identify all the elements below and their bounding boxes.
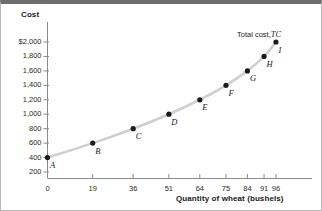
data-point-label-b: B <box>95 146 100 156</box>
data-point-label-h: H <box>267 59 273 69</box>
data-point-label-g: G <box>250 73 256 83</box>
data-point-markers <box>45 39 279 160</box>
data-point-label-a: A <box>50 160 55 170</box>
y-tick-label: 1,000 <box>23 109 42 118</box>
curve-label-text: Total cost, <box>237 30 271 39</box>
curve-label-symbol: TC <box>271 29 281 39</box>
y-tick-label: 1,600 <box>23 66 42 75</box>
y-tick-label: 1,200 <box>23 95 42 104</box>
data-point-label-i: I <box>278 45 281 55</box>
x-tick-label: 36 <box>121 184 145 193</box>
curve-series-label: Total cost,TC <box>237 29 281 39</box>
y-tick-label: 600 <box>29 138 42 147</box>
x-axis-title: Quantity of wheat (bushels) <box>176 194 284 203</box>
y-axis-title: Cost <box>21 10 39 19</box>
y-tick-label: 200 <box>29 167 42 176</box>
x-tick-label: 0 <box>36 184 60 193</box>
data-point-label-e: E <box>202 102 207 112</box>
x-tick-label: 19 <box>81 184 105 193</box>
total-cost-curve <box>48 42 276 158</box>
data-point-label-f: F <box>228 88 233 98</box>
y-tick-label: 800 <box>29 124 42 133</box>
data-point-label-d: D <box>171 117 177 127</box>
y-tick-label: 1,800 <box>23 51 42 60</box>
x-tick-label: 51 <box>157 184 181 193</box>
y-tick-label: 400 <box>29 153 42 162</box>
x-tick-label: 64 <box>188 184 212 193</box>
y-axis-ticks <box>44 42 50 172</box>
x-tick-label: 96 <box>264 184 288 193</box>
data-point-label-c: C <box>136 131 142 141</box>
x-tick-label: 75 <box>214 184 238 193</box>
figure-container: Cost Quantity of wheat (bushels) Total c… <box>0 0 322 211</box>
y-tick-label: 1,400 <box>23 80 42 89</box>
y-tick-label: $2,000 <box>19 37 42 46</box>
